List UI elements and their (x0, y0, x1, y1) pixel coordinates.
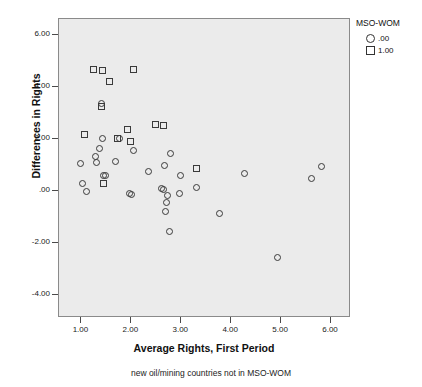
y-axis-tick-label: 4.00 (0, 81, 50, 90)
data-point (90, 66, 97, 73)
data-point (96, 145, 103, 152)
x-axis-title: Average Rights, First Period (58, 342, 350, 354)
data-point (127, 138, 134, 145)
y-axis-tick (52, 294, 58, 295)
legend-entry-label: .00 (378, 34, 389, 43)
data-point (216, 210, 223, 217)
data-point (161, 162, 168, 169)
y-axis-tick (52, 138, 58, 139)
data-point (193, 184, 200, 191)
y-axis-tick-label: 2.00 (0, 133, 50, 142)
data-point (152, 121, 159, 128)
data-point (193, 165, 200, 172)
data-point (176, 190, 183, 197)
y-axis-tick (52, 34, 58, 35)
data-point (130, 66, 137, 73)
data-point (166, 228, 173, 235)
data-point (308, 175, 315, 182)
x-axis-tick-label: 3.00 (160, 325, 200, 334)
y-axis-tick-label: 6.00 (0, 29, 50, 38)
y-axis-tick-label: -2.00 (0, 237, 50, 246)
legend-title: MSO-WOM (356, 18, 422, 28)
data-point (106, 78, 113, 85)
data-point (99, 67, 106, 74)
circle-marker-icon (366, 34, 375, 43)
data-point (177, 172, 184, 179)
x-axis-tick-label: 6.00 (310, 325, 350, 334)
figure-caption: new oil/mining countries not in MSO-WOM (40, 368, 382, 378)
square-marker-icon (366, 46, 375, 55)
x-axis-tick (130, 317, 131, 323)
legend-entry-1[interactable]: 1.00 (366, 45, 422, 56)
data-point (114, 135, 121, 142)
x-axis-tick-label: 5.00 (260, 325, 300, 334)
legend: MSO-WOM .00 1.00 (356, 18, 422, 57)
x-axis-tick (180, 317, 181, 323)
y-axis-tick (52, 242, 58, 243)
x-axis-tick (330, 317, 331, 323)
data-point (112, 158, 119, 165)
legend-entry-label: 1.00 (378, 46, 394, 55)
data-point (241, 170, 248, 177)
y-axis-tick-label: -4.00 (0, 289, 50, 298)
data-point (128, 191, 135, 198)
x-axis-tick-label: 1.00 (60, 325, 100, 334)
scatter-plot-figure: 6.004.002.00.00-2.00-4.00 1.002.003.004.… (0, 0, 422, 387)
data-point (160, 122, 167, 129)
x-axis-tick-label: 2.00 (110, 325, 150, 334)
data-point (77, 160, 84, 167)
x-axis-tick (280, 317, 281, 323)
data-point (98, 103, 105, 110)
y-axis-title: Differences in Rights (30, 36, 42, 216)
data-point (162, 208, 169, 215)
x-axis-tick-label: 4.00 (210, 325, 250, 334)
data-point (167, 150, 174, 157)
data-point (163, 199, 170, 206)
y-axis-tick (52, 86, 58, 87)
plot-area (58, 18, 350, 317)
y-axis-tick (52, 190, 58, 191)
data-point (83, 188, 90, 195)
data-point (81, 131, 88, 138)
x-axis-tick (230, 317, 231, 323)
x-axis-tick (80, 317, 81, 323)
data-point (124, 126, 131, 133)
legend-entry-0[interactable]: .00 (366, 33, 422, 44)
data-point (100, 180, 107, 187)
y-axis-tick-label: .00 (0, 185, 50, 194)
